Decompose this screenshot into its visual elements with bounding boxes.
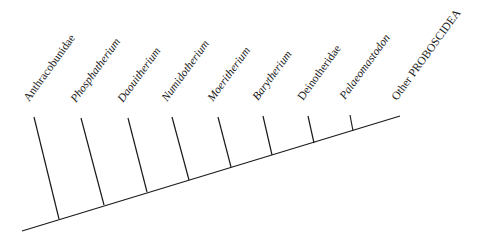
branch-line <box>172 117 189 180</box>
branch-line <box>128 118 147 192</box>
branch-line <box>34 117 59 219</box>
branch-lines <box>34 115 353 219</box>
branch-line <box>308 116 314 143</box>
branch-line <box>263 116 272 155</box>
cladogram-stem <box>22 116 400 231</box>
branch-line <box>350 115 353 131</box>
branch-line <box>81 118 104 205</box>
branch-line <box>218 117 231 167</box>
